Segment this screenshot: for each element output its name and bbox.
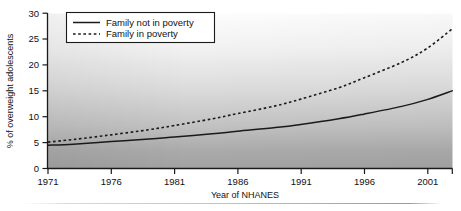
y-tick-label: 10 — [28, 111, 39, 122]
x-tick-label: 1976 — [101, 176, 122, 187]
legend-label-family-not-in-poverty: Family not in poverty — [106, 17, 194, 28]
y-tick-label: 30 — [28, 8, 39, 19]
x-tick-label: 1991 — [291, 176, 312, 187]
x-axis-tick-labels: 1971 1976 1981 1986 1991 1996 2001 — [37, 176, 438, 187]
x-axis-ticks — [48, 169, 452, 175]
x-tick-label: 2001 — [417, 176, 438, 187]
line-chart: 0 5 10 15 20 25 30 % of overweight adole… — [0, 0, 461, 211]
chart-legend: Family not in poverty Family in poverty — [67, 13, 215, 43]
x-tick-label: 1986 — [227, 176, 248, 187]
chart-figure: 0 5 10 15 20 25 30 % of overweight adole… — [0, 0, 461, 211]
y-tick-label: 25 — [28, 33, 39, 44]
figure-bottom-rule — [22, 203, 442, 204]
y-axis-ticks — [43, 13, 48, 168]
y-axis-tick-labels: 0 5 10 15 20 25 30 — [28, 8, 39, 174]
x-tick-label: 1996 — [354, 176, 375, 187]
y-tick-label: 15 — [28, 85, 39, 96]
y-tick-label: 20 — [28, 59, 39, 70]
x-tick-label: 1971 — [37, 176, 58, 187]
y-tick-label: 5 — [34, 137, 39, 148]
y-tick-label: 0 — [34, 163, 39, 174]
y-axis-title: % of overweight adolescents — [5, 33, 15, 148]
x-tick-label: 1981 — [164, 176, 185, 187]
x-axis-title: Year of NHANES — [211, 190, 279, 200]
legend-label-family-in-poverty: Family in poverty — [106, 28, 178, 39]
